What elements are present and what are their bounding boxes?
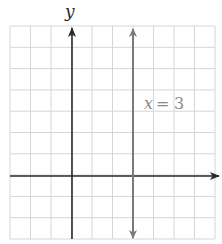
line-label-equals: =	[156, 94, 169, 113]
line-label-variable: x	[144, 94, 153, 113]
grid	[10, 26, 215, 239]
line-label: x = 3	[144, 94, 184, 113]
line-label-number: 3	[174, 94, 184, 113]
coordinate-graph: y x = 3	[0, 0, 222, 244]
y-axis-label: y	[64, 1, 75, 21]
